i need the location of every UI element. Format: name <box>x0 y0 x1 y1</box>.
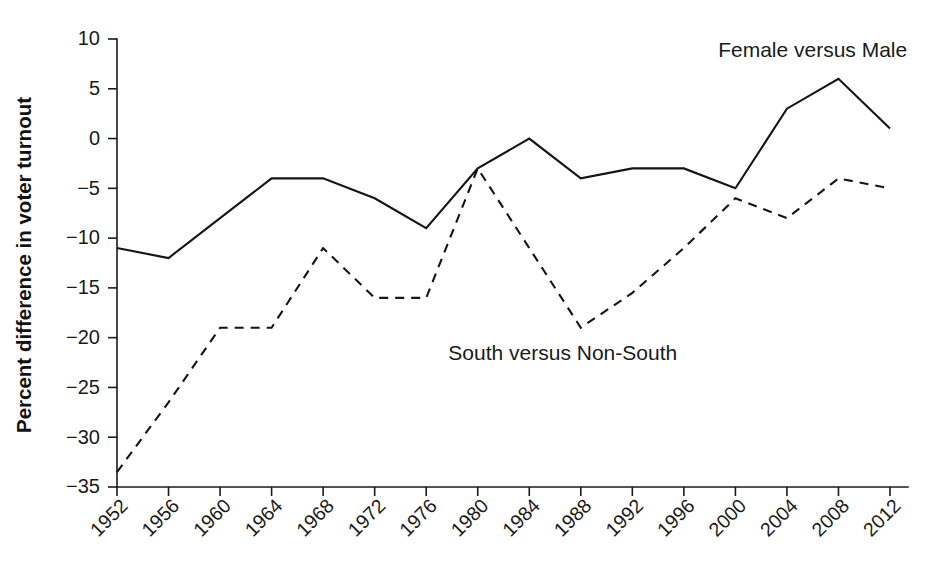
y-tick-label: 5 <box>89 77 100 99</box>
y-tick-label: −15 <box>66 276 100 298</box>
x-tick-label: 2008 <box>807 494 853 540</box>
y-tick-label: −10 <box>66 226 100 248</box>
x-axis-tick-labels: 1952195619601964196819721976198019841988… <box>86 494 905 540</box>
y-tick-label: −5 <box>77 177 100 199</box>
annotation-label: Female versus Male <box>718 38 907 61</box>
x-tick-label: 1972 <box>343 494 389 540</box>
y-tick-label: −20 <box>66 326 100 348</box>
x-tick-label: 1984 <box>498 494 544 540</box>
y-axis-ticks <box>108 39 117 487</box>
y-tick-label: −30 <box>66 426 100 448</box>
series-line-south-versus-non-south <box>117 168 890 472</box>
series-annotations: Female versus MaleSouth versus Non-South <box>448 38 907 364</box>
x-tick-label: 1992 <box>601 494 647 540</box>
series-line-female-versus-male <box>117 79 890 258</box>
x-tick-label: 1988 <box>549 494 595 540</box>
y-tick-label: 0 <box>89 127 100 149</box>
annotation-label: South versus Non-South <box>448 341 677 364</box>
x-tick-label: 1976 <box>395 494 441 540</box>
x-tick-label: 2004 <box>756 494 802 540</box>
x-tick-label: 1964 <box>240 494 286 540</box>
data-series <box>117 79 890 472</box>
y-axis-tick-labels: 1050−5−10−15−20−25−30−35 <box>66 27 100 497</box>
x-tick-label: 2000 <box>704 494 750 540</box>
x-tick-label: 1996 <box>652 494 698 540</box>
y-axis-title: Percent difference in voter turnout <box>12 97 35 433</box>
x-tick-label: 1952 <box>86 494 132 540</box>
y-tick-label: 10 <box>78 27 100 49</box>
line-chart: 1050−5−10−15−20−25−30−35 195219561960196… <box>0 0 937 575</box>
x-tick-label: 1980 <box>446 494 492 540</box>
y-tick-label: −35 <box>66 475 100 497</box>
x-axis-ticks <box>117 487 890 496</box>
x-tick-label: 1968 <box>292 494 338 540</box>
y-tick-label: −25 <box>66 376 100 398</box>
x-tick-label: 1960 <box>189 494 235 540</box>
chart-figure: 1050−5−10−15−20−25−30−35 195219561960196… <box>0 0 937 575</box>
x-tick-label: 1956 <box>137 494 183 540</box>
x-tick-label: 2012 <box>859 494 905 540</box>
